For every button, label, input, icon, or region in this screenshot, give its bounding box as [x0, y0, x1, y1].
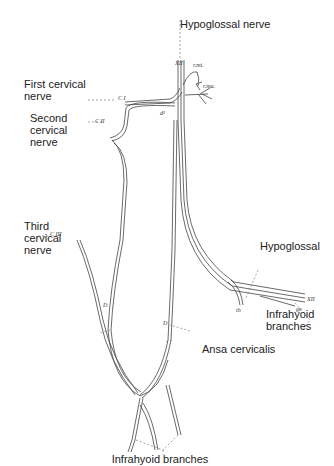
label-th: th [236, 307, 241, 313]
label-hypoglossal-nerve: Hypoglossal nerve [180, 18, 271, 30]
label-second-cervical-nerve: Second cervical nerve [30, 112, 67, 148]
label-d-left: D [103, 302, 107, 308]
label-d1: d¹ [160, 110, 165, 116]
label-infrahyoid-branches-bottom: Infrahyoid branches [112, 453, 209, 465]
label-d-right: D [163, 320, 167, 326]
label-c1: C I [118, 95, 126, 101]
label-c2: C II [95, 118, 105, 124]
label-r-ma: r.ma. [203, 83, 215, 89]
label-ge: ge [296, 306, 302, 312]
label-infrahyoid-branches-right: Infrahyoid branches [266, 308, 314, 332]
label-ansa-cervicalis: Ansa cervicalis [202, 343, 275, 355]
label-c3: C III [50, 231, 62, 237]
label-first-cervical-nerve: First cervical nerve [24, 78, 86, 102]
label-third-cervical-nerve: Third cervical nerve [24, 220, 61, 256]
hypoglossal-trunk-1 [178, 60, 305, 302]
label-hypoglossal: Hypoglossal [260, 240, 320, 252]
label-r-mi: r.mi. [193, 62, 204, 68]
label-xii-top: XII [175, 60, 183, 66]
label-xii-right: XII [307, 296, 315, 302]
